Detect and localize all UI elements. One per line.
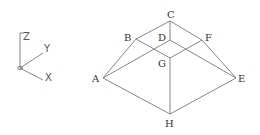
edge-CF: [170, 21, 202, 40]
label-E: E: [238, 73, 245, 84]
edge-BA: [103, 39, 136, 78]
label-G: G: [158, 58, 166, 69]
y-axis-line: [20, 53, 43, 68]
edge-AH: [103, 78, 170, 114]
axis-triad: [18, 33, 44, 80]
label-H: H: [165, 118, 174, 129]
label-A: A: [91, 73, 100, 84]
frustum-diagram: Z Y X A B C D E F G H: [0, 0, 260, 135]
frustum-edges: [103, 21, 236, 114]
label-C: C: [167, 9, 175, 20]
z-axis-label: Z: [23, 31, 30, 42]
x-axis-label: X: [45, 72, 52, 83]
edge-DE: [170, 40, 236, 78]
label-B: B: [124, 32, 131, 43]
edge-HE: [170, 78, 236, 114]
label-D: D: [158, 32, 166, 43]
label-F: F: [205, 32, 212, 43]
edge-FE: [202, 40, 236, 78]
x-axis-line: [20, 68, 43, 80]
y-axis-label: Y: [43, 43, 51, 54]
